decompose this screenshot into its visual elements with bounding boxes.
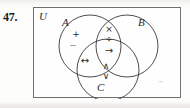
times-symbol: × [103, 25, 115, 34]
logical-and-symbol: ∧ [100, 62, 112, 71]
double-arrow-symbol: ↔ [79, 56, 91, 65]
logical-or-symbol: ∨ [100, 72, 112, 81]
right-arrow-symbol: → [103, 46, 115, 55]
set-label-a: A [62, 16, 69, 28]
stray-tilde-mark: ~ [158, 78, 164, 86]
divide-symbol: ÷ [103, 35, 115, 44]
problem-number: 47. [3, 10, 17, 25]
scan-smudge [0, 102, 190, 108]
set-label-c: C [97, 81, 104, 93]
set-label-b: B [138, 16, 145, 28]
page-background: 47. U A B C + − × ÷ → ↔ ∧ ∨ ~ [0, 0, 190, 108]
minus-symbol: − [67, 41, 79, 50]
venn-diagram-frame: U A B C + − × ÷ → ↔ ∧ ∨ ~ [33, 7, 181, 98]
plus-symbol: + [70, 30, 82, 39]
